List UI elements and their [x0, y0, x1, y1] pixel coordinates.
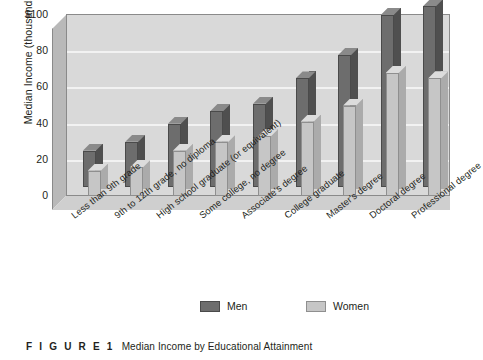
- figure-caption: F I G U R E 1Median Income by Educationa…: [26, 341, 312, 352]
- bar-group: [372, 15, 399, 196]
- legend-swatch-men: [200, 301, 220, 312]
- y-tick-100: $100: [8, 8, 48, 20]
- bar-women: [343, 106, 356, 197]
- legend-label-men: Men: [227, 300, 247, 312]
- bar-face: [343, 106, 356, 197]
- bar-side: [314, 115, 321, 189]
- bar-women: [301, 122, 314, 196]
- bar-side: [441, 71, 448, 189]
- bar-women: [428, 78, 441, 196]
- y-tick-40: 40: [8, 117, 48, 129]
- bar-face: [428, 78, 441, 196]
- bar-face: [386, 73, 399, 196]
- bar-women: [386, 73, 399, 196]
- bar-side: [356, 99, 363, 190]
- bar-face: [301, 122, 314, 196]
- y-tick-0: 0: [8, 189, 48, 201]
- legend-item: Men: [200, 300, 247, 312]
- y-axis-tick-labels: $100806040200: [8, 0, 48, 210]
- figure-number: F I G U R E 1: [26, 341, 115, 352]
- legend-item: Women: [306, 300, 369, 312]
- y-tick-60: 60: [8, 80, 48, 92]
- y-tick-80: 80: [8, 44, 48, 56]
- chart-legend: MenWomen: [0, 300, 461, 322]
- y-tick-20: 20: [8, 153, 48, 165]
- legend-swatch-women: [306, 301, 326, 312]
- bar-group: [414, 15, 441, 196]
- figure-caption-text: Median Income by Educational Attainment: [122, 341, 313, 352]
- bar-group: [329, 15, 356, 196]
- legend-label-women: Women: [333, 300, 369, 312]
- bar-side: [399, 66, 406, 189]
- bar-group: [74, 15, 101, 196]
